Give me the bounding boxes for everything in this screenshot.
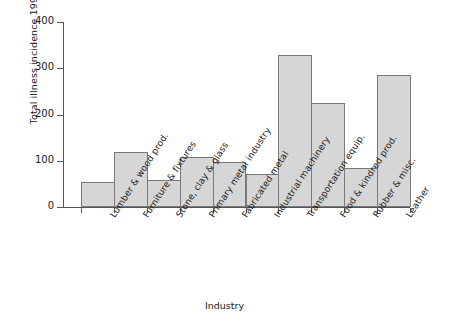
bar xyxy=(81,182,115,207)
x-axis-tick-mark xyxy=(81,208,82,213)
bar-chart-figure: Total illness incidence 1999 01002003004… xyxy=(0,0,449,327)
x-axis-title: Industry xyxy=(0,300,449,311)
